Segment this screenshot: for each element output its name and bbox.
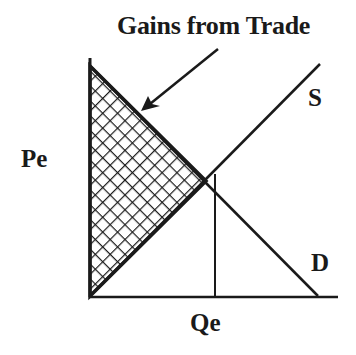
quantity-equilibrium-label: Qe xyxy=(190,310,221,335)
gains-from-trade-diagram: Gains from Trade Pe Qe S D xyxy=(0,0,356,355)
price-equilibrium-label: Pe xyxy=(21,146,47,171)
supply-label: S xyxy=(308,85,322,110)
annotation-arrow xyxy=(145,49,218,108)
demand-label: D xyxy=(311,250,329,275)
diagram-title: Gains from Trade xyxy=(117,13,310,39)
diagram-canvas xyxy=(0,0,356,355)
